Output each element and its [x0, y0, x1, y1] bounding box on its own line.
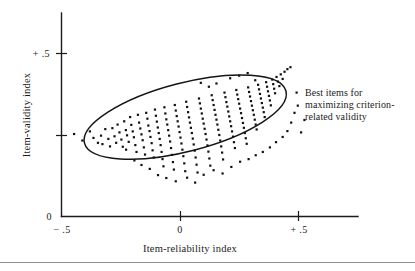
data-point — [275, 76, 277, 78]
data-point — [259, 93, 261, 95]
data-point — [205, 138, 207, 140]
data-point — [191, 132, 193, 134]
data-point — [274, 92, 276, 94]
data-point — [286, 130, 288, 132]
data-point — [278, 85, 280, 87]
data-point — [193, 143, 195, 145]
footer-rule — [0, 262, 415, 263]
data-point — [212, 99, 214, 101]
data-point — [147, 124, 149, 126]
data-point — [215, 82, 217, 84]
data-point — [120, 138, 122, 140]
data-point — [142, 139, 144, 141]
x-tick-label-minus-half: − .5 — [53, 224, 70, 235]
data-point — [178, 131, 180, 133]
data-point — [272, 83, 274, 85]
data-point — [213, 169, 215, 171]
data-point — [209, 165, 211, 167]
data-point — [140, 133, 142, 135]
data-points-layer — [73, 66, 306, 184]
data-point — [213, 104, 215, 106]
data-point — [202, 118, 204, 120]
selection-ellipse — [76, 58, 295, 176]
data-point — [266, 86, 268, 88]
data-point — [92, 137, 94, 139]
data-point — [198, 97, 200, 99]
data-point — [254, 79, 256, 81]
data-point — [220, 145, 222, 147]
annotation-line-2: maximizing criterion- — [305, 99, 395, 110]
data-point — [263, 111, 265, 113]
data-point — [254, 119, 256, 121]
data-point — [268, 95, 270, 97]
data-point — [154, 108, 156, 110]
data-point — [222, 158, 224, 160]
data-point — [239, 161, 241, 163]
data-point — [203, 122, 205, 124]
data-point — [135, 151, 137, 153]
data-point — [186, 177, 188, 179]
data-point — [187, 111, 189, 113]
data-point — [213, 109, 215, 111]
y-axis-title: Item-validity index — [21, 72, 32, 157]
data-point — [97, 142, 99, 144]
data-point — [149, 136, 151, 138]
data-point — [269, 99, 271, 101]
data-point — [249, 95, 251, 97]
data-point — [125, 129, 127, 131]
data-point — [247, 72, 249, 74]
data-point — [180, 142, 182, 144]
data-point — [240, 112, 242, 114]
data-point — [164, 112, 166, 114]
data-point — [230, 166, 232, 168]
data-point — [204, 128, 206, 130]
data-point — [134, 144, 136, 146]
x-tick-label-zero: 0 — [177, 224, 182, 235]
data-point — [138, 122, 140, 124]
data-point — [129, 116, 131, 118]
data-point — [237, 98, 239, 100]
data-point — [115, 142, 117, 144]
data-point — [208, 157, 210, 159]
data-point — [130, 124, 132, 126]
data-point — [174, 104, 176, 106]
data-point — [151, 142, 153, 144]
data-point — [132, 130, 134, 132]
data-point — [194, 182, 196, 184]
data-point — [218, 134, 220, 136]
data-point — [182, 155, 184, 157]
data-point — [183, 162, 185, 164]
data-point — [165, 177, 167, 179]
x-axis-title: Item-reliability index — [143, 243, 237, 254]
data-point — [283, 71, 285, 73]
data-point — [253, 114, 255, 116]
data-point — [139, 127, 141, 129]
data-point — [186, 106, 188, 108]
data-point — [73, 133, 75, 135]
data-point — [200, 82, 202, 84]
data-point — [104, 128, 106, 130]
data-point — [157, 126, 159, 128]
data-point — [145, 112, 147, 114]
data-point — [143, 146, 145, 148]
data-point — [245, 137, 247, 139]
data-point — [160, 144, 162, 146]
data-point — [215, 119, 217, 121]
data-point — [229, 120, 231, 122]
data-point — [267, 90, 269, 92]
data-point — [100, 135, 102, 137]
data-point — [248, 158, 250, 160]
data-point — [133, 136, 135, 138]
data-point — [226, 106, 228, 108]
data-point — [264, 116, 266, 118]
data-point — [177, 120, 179, 122]
data-point — [166, 123, 168, 125]
data-point — [185, 101, 187, 103]
data-point — [231, 130, 233, 132]
data-point — [217, 129, 219, 131]
data-point — [228, 115, 230, 117]
data-point — [195, 164, 197, 166]
data-point — [250, 100, 252, 102]
data-point — [190, 127, 192, 129]
data-point — [196, 171, 198, 173]
